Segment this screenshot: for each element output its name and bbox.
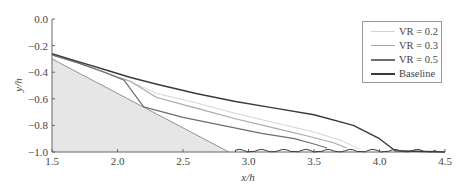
legend-label: VR = 0.5 (399, 53, 438, 66)
x-tick-label: 1.5 (45, 155, 59, 167)
y-axis-title: y/h (12, 78, 24, 93)
legend: VR = 0.2 VR = 0.3 VR = 0.5 Baseline (362, 21, 442, 83)
legend-label: Baseline (399, 67, 435, 80)
y-tick-label: −0.4 (28, 66, 48, 78)
x-tick-label: 4.5 (438, 155, 452, 167)
legend-item-vr-0-5: VR = 0.5 (363, 53, 443, 66)
x-tick-label: 4.0 (373, 155, 387, 167)
x-axis-title: x/h (240, 171, 255, 183)
legend-swatch (371, 73, 395, 75)
x-tick-label: 3.0 (242, 155, 256, 167)
y-tick-label: 0.0 (34, 13, 48, 25)
shaded-ramp-region (52, 59, 229, 152)
legend-label: VR = 0.3 (399, 39, 438, 52)
y-tick-label: −0.6 (28, 93, 48, 105)
y-tick-label: −0.8 (28, 119, 48, 131)
legend-label: VR = 0.2 (399, 25, 438, 38)
x-tick-label: 2.0 (111, 155, 125, 167)
legend-item-baseline: Baseline (363, 67, 443, 80)
y-tick-label: −0.2 (28, 40, 48, 52)
x-tick-label: 2.5 (176, 155, 190, 167)
legend-swatch (371, 45, 395, 46)
legend-item-vr-0-3: VR = 0.3 (363, 39, 443, 52)
legend-item-vr-0-2: VR = 0.2 (363, 25, 443, 38)
legend-swatch (371, 31, 395, 32)
x-tick-label: 3.5 (307, 155, 321, 167)
legend-swatch (371, 59, 395, 61)
